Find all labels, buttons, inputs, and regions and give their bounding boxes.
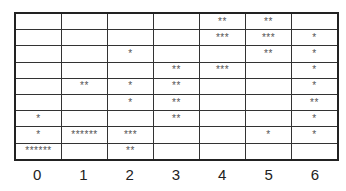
table-cell <box>246 143 292 160</box>
column-label-5: 5 <box>245 166 291 183</box>
table-cell <box>15 62 62 78</box>
table-cell <box>15 30 62 46</box>
table-cell <box>15 46 62 62</box>
table-cell <box>154 127 200 143</box>
table-cell: ** <box>246 13 292 30</box>
table-cell: ** <box>200 13 246 30</box>
table-cell <box>246 94 292 110</box>
table-cell: * <box>246 127 292 143</box>
table-cell <box>62 13 108 30</box>
table-cell: *** <box>108 127 154 143</box>
table-cell <box>62 143 108 160</box>
table-cell: * <box>292 62 339 78</box>
table-cell: ****** <box>62 127 108 143</box>
table-cell: * <box>292 30 339 46</box>
column-label-6: 6 <box>292 166 338 183</box>
table-cell <box>154 46 200 62</box>
table-cell <box>108 13 154 30</box>
table-cell <box>200 78 246 94</box>
column-label-4: 4 <box>199 166 245 183</box>
table-cell: * <box>15 111 62 127</box>
table-cell: * <box>108 78 154 94</box>
table-cell <box>62 46 108 62</box>
table-cell <box>200 143 246 160</box>
table-cell <box>154 143 200 160</box>
table-cell: * <box>292 46 339 62</box>
table-row: ***** <box>15 94 338 110</box>
table-cell <box>246 62 292 78</box>
table-cell: ** <box>154 62 200 78</box>
table-cell <box>62 111 108 127</box>
table-cell <box>108 30 154 46</box>
column-label-0: 0 <box>14 166 60 183</box>
table-cell: * <box>292 111 339 127</box>
table-row: **** <box>15 13 338 30</box>
table-cell <box>62 94 108 110</box>
table-cell: *** <box>246 30 292 46</box>
table-cell: ** <box>246 46 292 62</box>
table-cell <box>15 94 62 110</box>
table-row: **** <box>15 46 338 62</box>
column-label-1: 1 <box>60 166 106 183</box>
column-axis-labels: 0 1 2 3 4 5 6 <box>14 166 338 183</box>
table-cell: * <box>292 78 339 94</box>
table-cell <box>200 111 246 127</box>
table-cell: ** <box>154 94 200 110</box>
table-row: ******* <box>15 30 338 46</box>
table-cell: *** <box>200 30 246 46</box>
table-cell <box>62 62 108 78</box>
table-row: **** <box>15 111 338 127</box>
table-row: ************ <box>15 127 338 143</box>
table-cell: * <box>108 46 154 62</box>
table-cell: * <box>292 127 339 143</box>
table-row: ****** <box>15 62 338 78</box>
column-label-2: 2 <box>107 166 153 183</box>
table-cell: *** <box>200 62 246 78</box>
table-cell <box>246 78 292 94</box>
table-cell: ** <box>154 111 200 127</box>
table-cell: * <box>15 127 62 143</box>
table-cell: * <box>108 94 154 110</box>
table-cell <box>292 143 339 160</box>
table-cell: ** <box>62 78 108 94</box>
column-label-3: 3 <box>153 166 199 183</box>
table-cell <box>108 62 154 78</box>
table-cell <box>15 78 62 94</box>
table-cell <box>200 127 246 143</box>
table-cell <box>15 13 62 30</box>
table-cell <box>62 30 108 46</box>
table-cell <box>154 30 200 46</box>
table-cell <box>154 13 200 30</box>
table-cell: ****** <box>15 143 62 160</box>
star-grid-table: ****************************************… <box>14 12 339 161</box>
table-cell: ** <box>154 78 200 94</box>
table-cell <box>246 111 292 127</box>
table-cell <box>292 13 339 30</box>
table-cell <box>108 111 154 127</box>
table-cell <box>200 46 246 62</box>
table-cell <box>200 94 246 110</box>
table-cell: ** <box>108 143 154 160</box>
table-row: ******** <box>15 143 338 160</box>
table-cell: ** <box>292 94 339 110</box>
table-row: ****** <box>15 78 338 94</box>
